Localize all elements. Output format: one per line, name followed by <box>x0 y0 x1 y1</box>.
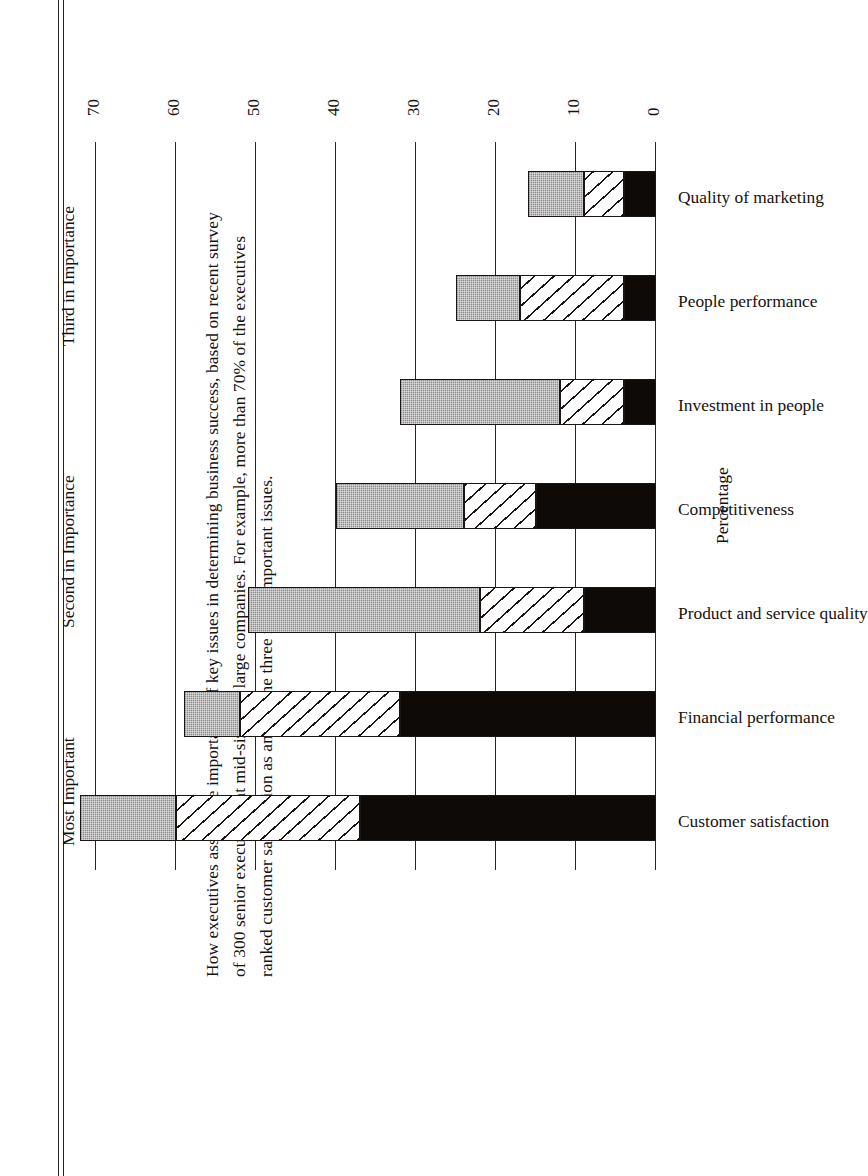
category-label: Investment in people <box>678 395 824 416</box>
bar-group[interactable] <box>96 379 656 425</box>
bar-segment[interactable] <box>80 795 176 841</box>
bar-group[interactable] <box>96 795 656 841</box>
bar-segment[interactable] <box>456 275 520 321</box>
bar-segment[interactable] <box>584 171 624 217</box>
bar-segment[interactable] <box>520 275 624 321</box>
axis-tick-50: 50 <box>244 99 264 116</box>
bar-segment[interactable] <box>360 795 656 841</box>
bar-segment[interactable] <box>480 587 584 633</box>
chart-container: Most Important Second in Importance Thir… <box>0 0 796 996</box>
bar-segment[interactable] <box>400 691 656 737</box>
bar-segment[interactable] <box>584 587 656 633</box>
bar-group[interactable] <box>96 171 656 217</box>
bar-segment[interactable] <box>536 483 656 529</box>
bar-segment[interactable] <box>624 379 656 425</box>
bar-segment[interactable] <box>560 379 624 425</box>
bar-segment[interactable] <box>624 171 656 217</box>
bar-group[interactable] <box>96 691 656 737</box>
category-label: Financial performance <box>678 707 835 728</box>
category-label: Quality of marketing <box>678 187 824 208</box>
bar-segment[interactable] <box>184 691 240 737</box>
category-label: Competitiveness <box>678 499 794 520</box>
bar-segment[interactable] <box>336 483 464 529</box>
bar-group[interactable] <box>96 275 656 321</box>
bar-group[interactable] <box>96 587 656 633</box>
bar-segment[interactable] <box>464 483 536 529</box>
axis-tick-40: 40 <box>324 99 344 116</box>
bar-segment[interactable] <box>176 795 360 841</box>
axis-tick-30: 30 <box>404 99 424 116</box>
axis-tick-20: 20 <box>484 99 504 116</box>
bar-group[interactable] <box>96 483 656 529</box>
bar-segment[interactable] <box>528 171 584 217</box>
axis-tick-0: 0 <box>644 108 664 117</box>
stacked-bar-chart: Most Important Second in Importance Thir… <box>0 0 796 996</box>
legend-label-most-important: Most Important <box>58 737 79 846</box>
bar-segment[interactable] <box>248 587 480 633</box>
plot-area <box>96 142 656 870</box>
axis-tick-70: 70 <box>84 99 104 116</box>
bar-segment[interactable] <box>240 691 400 737</box>
category-label: Customer satisfaction <box>678 811 829 832</box>
legend-label-third-in-importance: Third in Importance <box>58 206 79 346</box>
axis-tick-10: 10 <box>564 99 584 116</box>
bar-segment[interactable] <box>400 379 560 425</box>
category-label: Product and service quality <box>678 603 868 624</box>
legend-label-second-in-importance: Second in Importance <box>58 475 79 628</box>
category-label: People performance <box>678 291 818 312</box>
axis-tick-60: 60 <box>164 99 184 116</box>
bar-segment[interactable] <box>624 275 656 321</box>
